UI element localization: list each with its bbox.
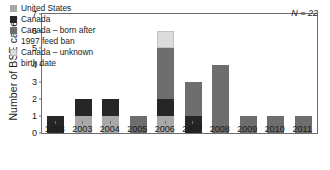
x-tick-label: 2011 xyxy=(282,124,322,134)
x-tick-mark xyxy=(192,121,193,124)
bse-cases-figure: Number of BSE cases 01234567 19932003200… xyxy=(0,0,330,170)
bar-segment xyxy=(157,48,174,99)
legend-item: Canada – unknown birth date xyxy=(10,47,96,68)
x-tick-mark xyxy=(110,121,111,124)
bar-segment xyxy=(157,31,174,48)
legend-swatch-icon xyxy=(10,49,17,56)
bar-2008 xyxy=(212,65,229,133)
x-tick-mark xyxy=(165,121,166,124)
sample-size-annotation: N = 22 xyxy=(291,8,318,18)
legend-swatch-icon xyxy=(10,27,17,34)
legend-label: Canada – born after 1997 feed ban xyxy=(21,25,96,46)
legend-label: Canada – unknown birth date xyxy=(21,47,93,68)
x-tick-mark xyxy=(137,121,138,124)
legend: United StatesCanadaCanada – born after 1… xyxy=(10,3,96,69)
x-tick-mark xyxy=(247,121,248,124)
legend-label: United States xyxy=(21,3,71,14)
x-tick-mark xyxy=(55,121,56,124)
x-tick-mark xyxy=(302,121,303,124)
legend-swatch-icon xyxy=(10,5,17,12)
bar-segment xyxy=(102,99,119,116)
bar-segment xyxy=(185,82,202,116)
x-tick-mark xyxy=(275,121,276,124)
bar-segment xyxy=(75,99,92,116)
bar-2006 xyxy=(157,31,174,133)
bar-segment xyxy=(157,99,174,116)
legend-item: Canada xyxy=(10,14,96,25)
legend-item: United States xyxy=(10,3,96,14)
x-tick-mark xyxy=(220,121,221,124)
bar-segment xyxy=(212,65,229,133)
x-tick-mark xyxy=(82,121,83,124)
legend-item: Canada – born after 1997 feed ban xyxy=(10,25,96,46)
legend-label: Canada xyxy=(21,14,50,25)
legend-swatch-icon xyxy=(10,16,17,23)
